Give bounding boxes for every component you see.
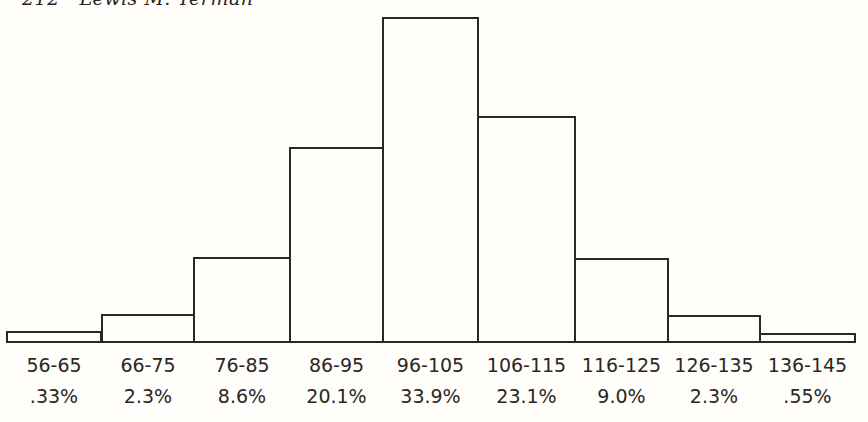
- bin-percent-label: .55%: [758, 385, 858, 407]
- bin-percent-label: 20.1%: [287, 385, 387, 407]
- bin-percent-label: 2.3%: [98, 385, 198, 407]
- histogram-bar: [574, 258, 669, 343]
- histogram-bar: [477, 116, 576, 343]
- histogram-bar: [667, 315, 761, 343]
- histogram-bar: [382, 17, 479, 343]
- bin-range-label: 96-105: [381, 354, 481, 376]
- histogram-bar: [289, 147, 384, 343]
- histogram-bar: [101, 314, 195, 343]
- bin-percent-label: 8.6%: [192, 385, 292, 407]
- iq-distribution-histogram: 56-65.33%66-752.3%76-858.6%86-9520.1%96-…: [0, 0, 868, 422]
- bin-range-label: 106-115: [477, 354, 577, 376]
- bin-range-label: 56-65: [4, 354, 104, 376]
- bin-range-label: 116-125: [572, 354, 672, 376]
- bin-percent-label: 2.3%: [664, 385, 764, 407]
- bin-range-label: 86-95: [287, 354, 387, 376]
- histogram-bar: [6, 331, 102, 343]
- bin-range-label: 126-135: [664, 354, 764, 376]
- histogram-bar: [759, 333, 856, 343]
- bin-percent-label: 33.9%: [381, 385, 481, 407]
- bin-percent-label: .33%: [4, 385, 104, 407]
- bin-range-label: 66-75: [98, 354, 198, 376]
- bin-percent-label: 23.1%: [477, 385, 577, 407]
- bin-range-label: 136-145: [758, 354, 858, 376]
- histogram-bar: [193, 257, 291, 343]
- bin-percent-label: 9.0%: [572, 385, 672, 407]
- bin-range-label: 76-85: [192, 354, 292, 376]
